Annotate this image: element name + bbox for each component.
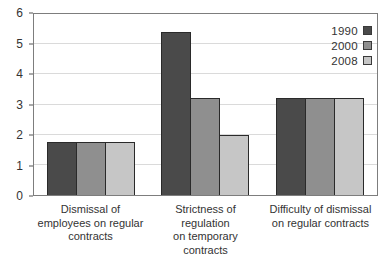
legend: 199020002008 [331,23,372,68]
y-tick-label-3: 3 [16,99,23,111]
bar-1990-category-2 [276,98,306,195]
bar-2008-category-1 [219,135,249,195]
legend-item-2008: 2008 [331,53,372,68]
y-tick-mark-1 [29,165,33,166]
bar-2008-category-2 [334,98,364,195]
legend-label: 2008 [331,55,358,67]
x-axis-category-labels: Dismissal of employees on regular contra… [33,203,378,257]
y-tick-mark-4 [29,74,33,75]
bar-1990-category-1 [161,32,191,195]
bar-2000-category-1 [190,98,220,195]
y-tick-label-5: 5 [16,38,23,50]
y-axis: 0123456 [0,13,33,196]
y-tick-label-1: 1 [16,160,23,172]
y-tick-mark-3 [29,104,33,105]
legend-item-1990: 1990 [331,23,372,38]
bar-group-1 [148,14,262,195]
legend-item-2000: 2000 [331,38,372,53]
legend-label: 2000 [331,40,358,52]
bar-1990-category-0 [47,142,77,195]
category-label-0: Dismissal of employees on regular contra… [33,203,148,257]
bar-2008-category-0 [105,142,135,195]
legend-swatch-1990 [363,26,372,35]
bar-2000-category-2 [305,98,335,195]
legend-swatch-2008 [363,56,372,65]
plot-area: 199020002008 [33,13,378,196]
legend-label: 1990 [331,25,358,37]
y-tick-label-0: 0 [16,190,23,202]
legend-swatch-2000 [363,41,372,50]
y-tick-mark-2 [29,135,33,136]
category-label-1: Strictness of regulation on temporary co… [148,203,263,257]
grouped-bar-chart: 199020002008 0123456 Dismissal of employ… [0,0,390,261]
bar-group-0 [34,14,148,195]
y-tick-mark-5 [29,43,33,44]
y-tick-mark-6 [29,13,33,14]
y-tick-mark-0 [29,196,33,197]
category-label-2: Difficulty of dismissal on regular contr… [263,203,378,257]
y-tick-label-6: 6 [16,7,23,19]
y-tick-label-4: 4 [16,68,23,80]
y-tick-label-2: 2 [16,129,23,141]
bar-2000-category-0 [76,142,106,195]
